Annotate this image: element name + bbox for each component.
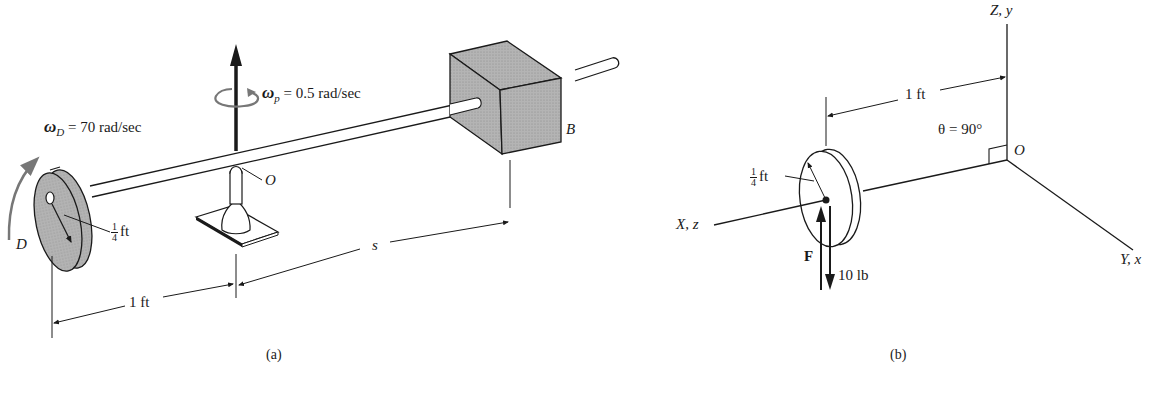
axis-x-label: X, z [676,217,699,232]
dimension-1ft-b: 1 ft [905,87,925,102]
disk-d [26,166,110,276]
omega-d-rotation-arrow [9,160,36,240]
omega-p-label: ωp = 0.5 rad/sec [262,84,361,101]
caption-a: (a) [266,348,282,362]
block-b [450,41,561,154]
omega-d-value: = 70 rad/sec [68,119,141,135]
disk-radius-label-a: 14ft [111,222,129,243]
dimension-s-label: s [372,238,378,253]
precession-axis-arrow [215,44,258,151]
force-f-label: F [804,249,813,264]
force-value-label: 10 lb [838,268,868,283]
axis-y-label: Y, x [1120,252,1141,267]
dimension-1ft-a: 1 ft [129,295,149,310]
omega-d-label: ωD = 70 rad/sec [44,118,141,135]
point-b-label: B [566,122,575,137]
point-o-label-b: O [1014,143,1025,158]
point-o-label-a: O [265,173,276,188]
figure-b-drawing [714,24,1133,290]
figure-a-drawing [0,0,1162,395]
disk-radius-label-b: 14ft [750,167,768,188]
omega-p-value: = 0.5 rad/sec [284,85,361,101]
theta-label: θ = 90° [938,122,982,137]
axis-z-label: Z, y [990,3,1013,18]
point-d-label: D [16,237,27,252]
caption-b: (b) [890,348,906,362]
